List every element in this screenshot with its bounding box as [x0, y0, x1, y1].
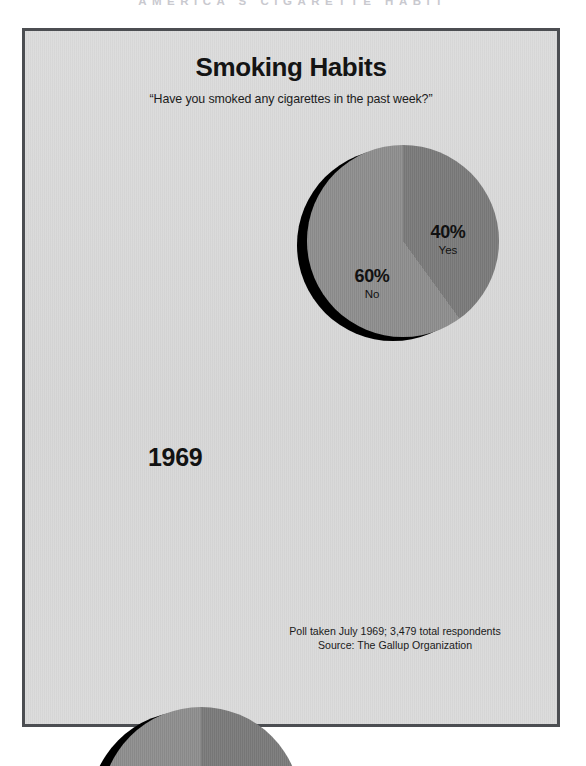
year-label-1969: 1969	[148, 443, 586, 472]
footnote-line-poll-1969: Poll taken July 1969; 3,479 total respon…	[255, 624, 535, 638]
pie-slice-percent-1969-yes: 40%	[413, 223, 483, 241]
pie-slice-percent-1969-no: 60%	[337, 267, 407, 285]
pie-slice-label-1969-no: 60% No	[337, 267, 407, 301]
chart-subtitle: “Have you smoked any cigarettes in the p…	[25, 92, 557, 106]
pie-chart-2004: 25% Yes 75% No	[89, 707, 301, 766]
pie-slice-name-1969-no: No	[337, 289, 407, 301]
chart-footnote-1969: Poll taken July 1969; 3,479 total respon…	[255, 624, 535, 653]
pie-slice-label-1969-yes: 40% Yes	[413, 223, 483, 257]
footnote-line-source-1969: Source: The Gallup Organization	[255, 638, 535, 652]
pie-disc-2004	[101, 707, 301, 766]
pie-chart-1969: 40% Yes 60% No	[297, 145, 501, 349]
page-title: Smoking Habits	[25, 52, 557, 83]
chart-poster: Smoking Habits “Have you smoked any ciga…	[22, 28, 560, 727]
pie-slice-name-1969-yes: Yes	[413, 245, 483, 257]
running-head: AMERICA'S CIGARETTE HABIT	[0, 0, 586, 5]
